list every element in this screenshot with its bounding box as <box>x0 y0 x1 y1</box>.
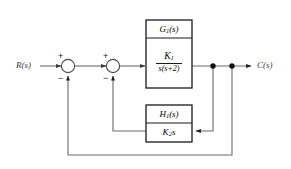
h1-expr-tail: s <box>172 127 176 137</box>
g1-title-tail: (s) <box>169 24 179 34</box>
h1-title-tail: (s) <box>169 109 179 119</box>
g1-denominator: s(s+2) <box>156 65 183 73</box>
outer-summer-plus-sign: + <box>58 52 63 61</box>
g1-numerator-sub: 1 <box>171 54 174 61</box>
inner-summer-minus-sign: − <box>103 74 108 83</box>
g1-numerator: K1 <box>156 52 183 62</box>
rate-feedback-block-title: H1(s) <box>146 105 192 123</box>
wire-h1-to-inner-summer <box>113 76 146 131</box>
inner-summer-plus-sign: + <box>103 52 108 61</box>
wire-inner-feedback-path <box>196 66 213 131</box>
forward-path-transfer-function: K1 s(s+2) <box>146 38 192 88</box>
inner-summing-junction <box>106 59 119 72</box>
block-diagram-canvas: R(s) C(s) + − + − G1(s) K1 s(s+2) H1(s) … <box>0 0 291 169</box>
outer-summing-junction <box>61 59 74 72</box>
outer-loop-takeoff <box>229 63 234 68</box>
rate-feedback-expression: K2s <box>146 123 192 142</box>
outer-summer-minus-sign: − <box>58 74 63 83</box>
reference-input-label: R(s) <box>16 61 31 70</box>
inner-loop-takeoff <box>210 63 215 68</box>
controlled-output-label: C(s) <box>257 61 273 70</box>
forward-path-block-title: G1(s) <box>146 20 192 38</box>
